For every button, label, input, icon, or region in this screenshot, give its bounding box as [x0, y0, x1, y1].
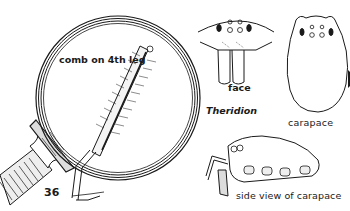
- side-view-carapace-illustration: [206, 136, 319, 196]
- illustration-canvas: [0, 0, 350, 211]
- side-view-caption: side view of carapace: [236, 191, 341, 201]
- genus-name-heading: Theridion: [206, 106, 257, 116]
- magnifying-glass-handle-icon: [0, 120, 74, 205]
- face-caption: face: [228, 83, 251, 93]
- carapace-illustration: [287, 16, 350, 112]
- carapace-caption: carapace: [288, 118, 333, 128]
- field-guide-page: comb on 4th leg face Theridion carapace …: [0, 0, 350, 211]
- comb-on-4th-leg-caption: comb on 4th leg: [59, 55, 145, 65]
- page-number: 36: [44, 187, 59, 198]
- face-illustration: [198, 20, 274, 84]
